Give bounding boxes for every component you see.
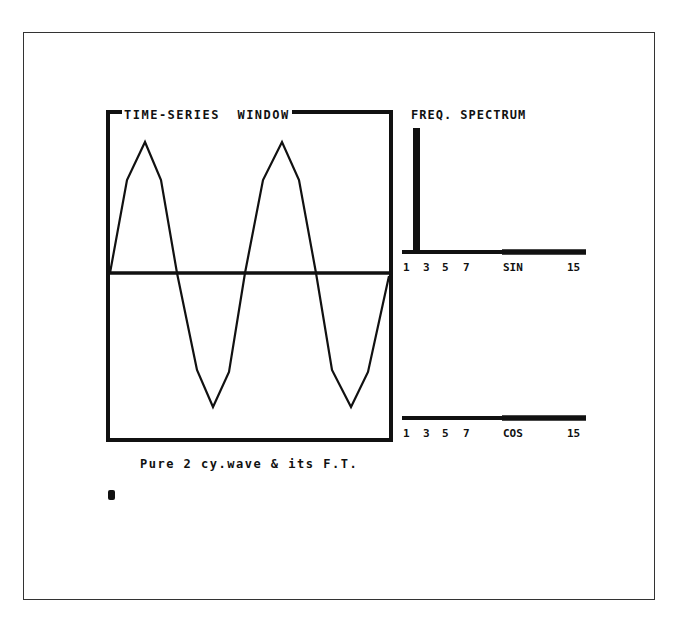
cos-tick-5: 5 <box>442 427 449 440</box>
cos-tick-3: 3 <box>423 427 430 440</box>
sin-axis-labels: 1 3 5 7 SIN 15 <box>401 261 591 275</box>
sin-tick-5: 5 <box>442 261 449 274</box>
plot-canvas <box>0 0 675 622</box>
cos-tick-7: 7 <box>463 427 470 440</box>
caption-text: Pure 2 cy.wave & its F.T. <box>140 457 358 471</box>
time-series-window <box>108 112 391 440</box>
spectrum-title: FREQ. SPECTRUM <box>411 108 526 122</box>
cos-tick-15: 15 <box>567 427 580 440</box>
sin-bar-freq-2 <box>413 128 420 254</box>
cos-axis-labels: 1 3 5 7 COS 15 <box>401 427 591 441</box>
sin-axis-label: SIN <box>503 261 523 274</box>
time-series-title: TIME-SERIES WINDOW <box>122 108 292 122</box>
cos-axis-label: COS <box>503 427 523 440</box>
sin-tick-3: 3 <box>423 261 430 274</box>
sin-tick-7: 7 <box>463 261 470 274</box>
sin-tick-15: 15 <box>567 261 580 274</box>
cos-tick-1: 1 <box>403 427 410 440</box>
sin-tick-1: 1 <box>403 261 410 274</box>
text-cursor <box>108 490 115 500</box>
